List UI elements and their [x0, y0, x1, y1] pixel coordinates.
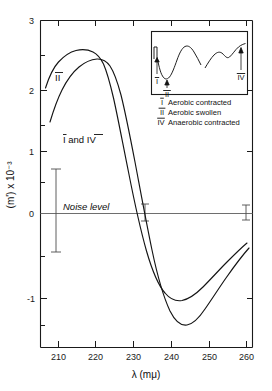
svg-text:I: I — [156, 77, 158, 86]
y-tick-label-1: 1 — [29, 147, 34, 157]
error-bar-right — [242, 205, 250, 220]
curve-label-I-and-IV: I and IV — [63, 134, 103, 145]
x-axis-ticks — [59, 341, 247, 348]
inset-panel: I II IV — [152, 32, 248, 100]
y-tick-label-3: 3 — [29, 16, 34, 26]
y-tick-label-neg1: -1 — [27, 294, 35, 304]
svg-text:Aerobic swollen: Aerobic swollen — [168, 108, 221, 117]
y-tick-label-2: 2 — [29, 86, 34, 96]
svg-text:II: II — [160, 108, 164, 117]
error-bar-left — [51, 169, 61, 252]
svg-text:I and IV: I and IV — [63, 134, 96, 145]
figure-container: 3 2 1 0 -1 210 220 230 240 250 260 λ (mμ… — [0, 0, 272, 391]
x-tick-label-250: 250 — [202, 352, 217, 362]
y-axis-ticks-right — [247, 91, 253, 299]
svg-text:IV: IV — [157, 118, 165, 127]
x-tick-label-220: 220 — [88, 352, 103, 362]
y-tick-label-0: 0 — [29, 209, 34, 219]
noise-level-annotation: Noise level — [63, 201, 110, 212]
svg-text:II: II — [55, 72, 60, 83]
x-axis-ticks-top — [59, 21, 247, 27]
inset-legend-row-2: II Aerobic swollen — [159, 108, 222, 117]
y-axis-title: (m') x 10⁻³ — [5, 161, 16, 209]
inset-legend-row-1: I Aerobic contracted — [160, 98, 231, 107]
svg-text:I: I — [161, 98, 163, 107]
x-tick-label-230: 230 — [126, 352, 141, 362]
spectrum-chart: 3 2 1 0 -1 210 220 230 240 250 260 λ (mμ… — [0, 0, 272, 391]
svg-text:Aerobic contracted: Aerobic contracted — [168, 98, 231, 107]
inset-legend: I Aerobic contracted II Aerobic swollen … — [157, 98, 240, 127]
x-axis-title: λ (mμ) — [132, 369, 161, 380]
curve-label-II: II — [55, 72, 63, 83]
svg-text:Anaerobic contracted: Anaerobic contracted — [168, 118, 240, 127]
x-tick-label-210: 210 — [51, 352, 66, 362]
y-axis-ticks — [41, 21, 48, 326]
x-tick-label-260: 260 — [239, 352, 254, 362]
x-tick-label-240: 240 — [164, 352, 179, 362]
inset-legend-row-3: IV Anaerobic contracted — [157, 118, 240, 127]
svg-text:IV: IV — [237, 73, 244, 82]
